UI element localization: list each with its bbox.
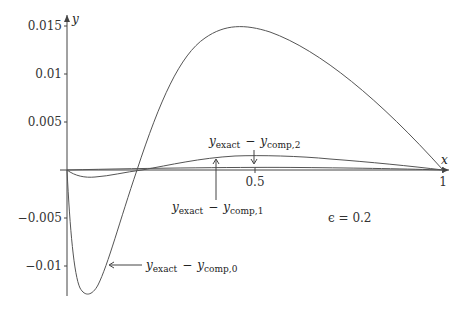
label-comp2: yexact−ycomp,2 bbox=[208, 134, 300, 150]
y-tick-0005: 0.005 bbox=[28, 115, 62, 129]
y-tick-m001: −0.01 bbox=[25, 259, 62, 273]
y-axis-arrow-icon bbox=[64, 15, 70, 22]
x-tick-1: 1 bbox=[439, 175, 447, 189]
chart: y x 0.015 0.01 0.005 −0.005 −0.01 0.5 1 … bbox=[0, 0, 470, 312]
y-axis-label: y bbox=[71, 12, 79, 26]
x-axis-label: x bbox=[441, 153, 448, 167]
curve-comp0 bbox=[67, 27, 443, 294]
label-comp1: yexact−ycomp,1 bbox=[171, 200, 263, 216]
label-comp0: yexact−ycomp,0 bbox=[145, 258, 238, 274]
y-tick-001: 0.01 bbox=[35, 67, 62, 81]
y-ticks: 0.015 0.01 0.005 −0.005 −0.01 bbox=[18, 19, 67, 273]
x-tick-05: 0.5 bbox=[245, 175, 264, 189]
curve-comp1 bbox=[67, 156, 443, 178]
epsilon-annotation: ϵ = 0.2 bbox=[328, 211, 372, 225]
y-tick-0015: 0.015 bbox=[28, 19, 62, 33]
y-tick-m0005: −0.005 bbox=[18, 211, 62, 225]
